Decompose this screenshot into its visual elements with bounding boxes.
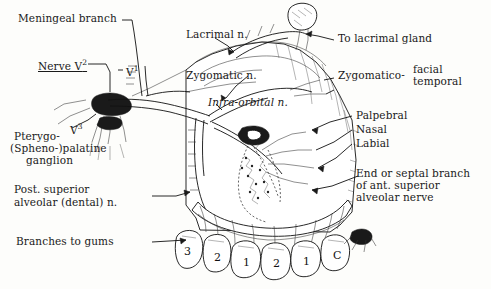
label-post-sup-alveolar-line2: alveolar (dental) n. bbox=[14, 197, 117, 209]
tooth-label-2b: 2 bbox=[273, 257, 280, 270]
teeth-row bbox=[175, 230, 349, 279]
label-labial: Labial bbox=[356, 138, 390, 150]
label-palpebral: Palpebral bbox=[356, 110, 407, 122]
label-sphenopalatine: (Spheno-)palatine bbox=[10, 143, 107, 155]
label-zygomatic-nerve: Zygomatic n. bbox=[186, 70, 257, 82]
label-v1: V1 bbox=[126, 63, 139, 78]
label-end-septal-line2: of ant. superior bbox=[356, 180, 440, 192]
tooth-label-3: 3 bbox=[184, 245, 191, 258]
label-zygomaticotemporal: temporal bbox=[413, 76, 462, 88]
label-end-septal-line3: alveolar nerve bbox=[356, 192, 434, 204]
label-post-sup-alveolar-line1: Post. superior bbox=[14, 184, 89, 196]
tooth-label-1b: 1 bbox=[303, 255, 310, 268]
label-infraorbital-nerve: Infra-orbital n. bbox=[208, 97, 288, 109]
label-zygomaticofacial: facial bbox=[413, 64, 443, 76]
label-meningeal-branch: Meningeal branch bbox=[18, 13, 117, 25]
tooth-label-c: C bbox=[333, 249, 341, 262]
label-v3-superscript: 3 bbox=[78, 122, 83, 131]
label-v3: V3 bbox=[70, 121, 83, 136]
label-zygomatico: Zygomatico- bbox=[338, 70, 405, 82]
label-nerve-v2-superscript: 2 bbox=[82, 58, 87, 67]
label-v3-text: V bbox=[70, 124, 78, 136]
anatomy-figure: Meningeal branch Lacrimal n. To lacrimal… bbox=[0, 0, 491, 289]
tooth-label-1a: 1 bbox=[243, 256, 250, 269]
label-v1-text: V bbox=[126, 66, 134, 78]
label-end-septal-line1: End or septal branch bbox=[356, 168, 470, 180]
label-ganglion: ganglion bbox=[26, 155, 73, 167]
label-to-lacrimal-gland: To lacrimal gland bbox=[338, 33, 432, 45]
label-v1-superscript: 1 bbox=[134, 64, 139, 73]
label-branches-to-gums: Branches to gums bbox=[16, 236, 114, 248]
label-lacrimal-nerve: Lacrimal n. bbox=[186, 29, 248, 41]
nasal-bone-top bbox=[288, 3, 317, 50]
label-pterygo: Pterygo- bbox=[14, 131, 60, 143]
tooth-label-2a: 2 bbox=[214, 251, 221, 264]
label-nerve-v2: Nerve V2 bbox=[38, 57, 87, 72]
label-nasal: Nasal bbox=[356, 124, 387, 136]
label-nerve-v2-text: Nerve V bbox=[38, 60, 82, 72]
